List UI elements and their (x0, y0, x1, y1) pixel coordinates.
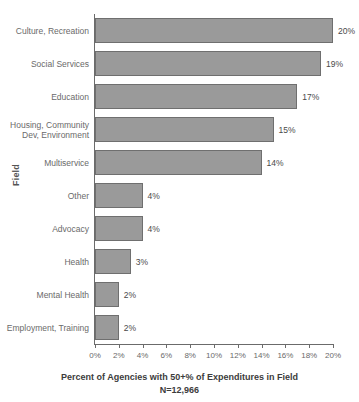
x-axis-tick-label: 18% (301, 351, 317, 360)
plot-area: Culture, Recreation20%Social Services19%… (95, 14, 333, 344)
category-label: Other (0, 191, 89, 201)
bar-value-label: 15% (279, 125, 296, 135)
bar (95, 117, 274, 142)
category-label: Education (0, 92, 89, 102)
x-axis-tick (333, 344, 334, 348)
bar-value-label: 3% (136, 257, 148, 267)
bar-row: Mental Health2% (95, 282, 333, 307)
bar-value-label: 14% (267, 158, 284, 168)
bar-value-label: 19% (326, 59, 343, 69)
x-axis-tick-label: 10% (206, 351, 222, 360)
bar-value-label: 20% (338, 26, 355, 36)
x-axis-tick (262, 344, 263, 348)
x-axis-tick (143, 344, 144, 348)
x-axis-tick-label: 16% (277, 351, 293, 360)
x-axis-tick-label: 0% (89, 351, 101, 360)
x-axis-tick-label: 14% (254, 351, 270, 360)
category-label: Advocacy (0, 224, 89, 234)
sample-size-label: N=12,966 (0, 385, 359, 395)
x-axis-tick (214, 344, 215, 348)
bar (95, 18, 333, 43)
bar (95, 150, 262, 175)
bar (95, 183, 143, 208)
x-axis-tick-label: 2% (113, 351, 125, 360)
bar-row: Culture, Recreation20% (95, 18, 333, 43)
x-axis-tick (309, 344, 310, 348)
bar-row: Education17% (95, 84, 333, 109)
bar (95, 282, 119, 307)
category-label: Multiservice (0, 158, 89, 168)
bar (95, 249, 131, 274)
x-axis-tick (238, 344, 239, 348)
x-axis-tick-label: 20% (325, 351, 341, 360)
bar (95, 315, 119, 340)
x-axis-tick-label: 4% (137, 351, 149, 360)
bar-row: Social Services19% (95, 51, 333, 76)
bar-row: Housing, Community Dev, Environment15% (95, 117, 333, 142)
x-axis-tick (285, 344, 286, 348)
x-axis-tick-label: 12% (230, 351, 246, 360)
x-axis-tick-label: 8% (184, 351, 196, 360)
bar-value-label: 2% (124, 323, 136, 333)
bar-value-label: 4% (148, 224, 160, 234)
x-axis-tick (166, 344, 167, 348)
bar-value-label: 2% (124, 290, 136, 300)
bar (95, 84, 297, 109)
bar-value-label: 17% (302, 92, 319, 102)
bar-value-label: 4% (148, 191, 160, 201)
category-label: Mental Health (0, 290, 89, 300)
bar-row: Health3% (95, 249, 333, 274)
category-label: Housing, Community Dev, Environment (0, 120, 89, 140)
bar-row: Other4% (95, 183, 333, 208)
bar-row: Employment, Training2% (95, 315, 333, 340)
bar (95, 216, 143, 241)
x-axis-tick (119, 344, 120, 348)
bar-row: Advocacy4% (95, 216, 333, 241)
x-axis-tick (95, 344, 96, 348)
bar-chart: Field Culture, Recreation20%Social Servi… (0, 0, 359, 402)
x-axis-tick-label: 6% (161, 351, 173, 360)
bar-row: Multiservice14% (95, 150, 333, 175)
category-label: Employment, Training (0, 323, 89, 333)
bar (95, 51, 321, 76)
x-axis-label: Percent of Agencies with 50+% of Expendi… (0, 372, 359, 382)
category-label: Social Services (0, 59, 89, 69)
x-axis-tick (190, 344, 191, 348)
category-label: Culture, Recreation (0, 26, 89, 36)
category-label: Health (0, 257, 89, 267)
